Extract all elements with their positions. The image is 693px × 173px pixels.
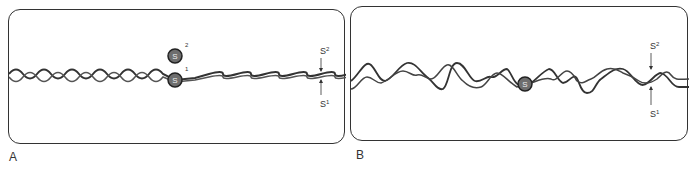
helix-diagram-a: S 1 S 2 S2 S1 — [9, 10, 346, 145]
svg-text:S: S — [172, 76, 177, 85]
bead-s1: S 1 — [168, 66, 189, 87]
marker-s2-arrow: S2 — [319, 46, 330, 72]
marker-s1-arrow: S1 — [649, 86, 660, 119]
panel-a: S 1 S 2 S2 S1 — [8, 9, 345, 144]
panel-label-a: A — [9, 150, 17, 164]
svg-text:1: 1 — [185, 66, 189, 72]
marker-s1-arrow: S1 — [319, 79, 330, 109]
marker-s2-arrow: S2 — [649, 41, 660, 70]
bead-s2: S 2 — [168, 42, 189, 63]
svg-text:S2: S2 — [320, 46, 330, 56]
panel-b: S S2 S1 — [350, 6, 688, 141]
bead-s: S — [518, 77, 532, 91]
helix-diagram-b: S S2 S1 — [351, 7, 689, 142]
svg-text:S2: S2 — [650, 41, 660, 51]
svg-text:2: 2 — [185, 42, 189, 48]
svg-text:S: S — [522, 80, 527, 89]
panel-label-b: B — [356, 148, 364, 162]
svg-text:S1: S1 — [650, 109, 660, 119]
svg-text:S1: S1 — [320, 99, 330, 109]
svg-text:S: S — [172, 52, 177, 61]
